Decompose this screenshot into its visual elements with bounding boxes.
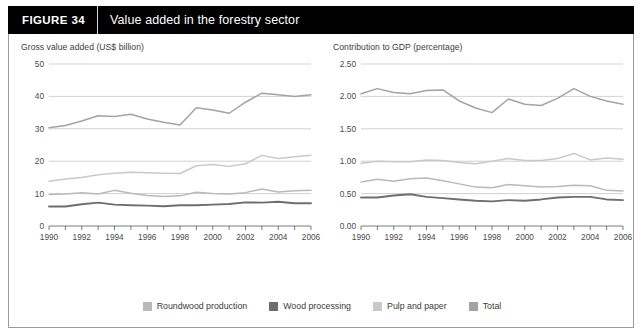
x-tick-label: 1990 bbox=[344, 233, 378, 241]
x-tick-label: 1992 bbox=[377, 233, 411, 241]
plot-area-left: 0102030405019901992199419961998200020022… bbox=[15, 58, 320, 253]
x-tick-label: 2004 bbox=[261, 233, 295, 241]
series-line bbox=[361, 89, 623, 113]
figure-body: Gross value added (US$ billion) 01020304… bbox=[8, 34, 634, 328]
legend-item: Total bbox=[469, 301, 502, 311]
x-tick-label: 1992 bbox=[65, 233, 99, 241]
chart-svg-left bbox=[15, 58, 320, 253]
x-tick-label: 1994 bbox=[410, 233, 444, 241]
legend-label: Roundwood production bbox=[157, 301, 247, 311]
legend-label: Wood processing bbox=[283, 301, 351, 311]
x-tick-label: 1998 bbox=[475, 233, 509, 241]
y-tick-label: 0.50 bbox=[327, 190, 356, 198]
y-tick-label: 2.00 bbox=[327, 92, 356, 100]
figure-number: FIGURE 34 bbox=[8, 14, 97, 26]
y-tick-label: 0 bbox=[15, 222, 44, 230]
legend-item: Roundwood production bbox=[143, 301, 247, 311]
chart-gross-value-added: Gross value added (US$ billion) 01020304… bbox=[15, 34, 320, 284]
x-axis bbox=[361, 226, 623, 230]
series-line bbox=[49, 202, 311, 207]
x-tick-label: 2002 bbox=[541, 233, 575, 241]
legend-swatch-icon bbox=[373, 302, 382, 311]
chart-right-axis-title: Contribution to GDP (percentage) bbox=[333, 42, 462, 52]
y-tick-label: 2.50 bbox=[327, 60, 356, 68]
series-line bbox=[49, 155, 311, 181]
legend-swatch-icon bbox=[269, 302, 278, 311]
x-tick-label: 1994 bbox=[98, 233, 132, 241]
y-tick-label: 1.50 bbox=[327, 125, 356, 133]
chart-legend: Roundwood productionWood processingPulp … bbox=[9, 286, 635, 326]
chart-svg-right bbox=[327, 58, 632, 253]
x-tick-label: 2000 bbox=[508, 233, 542, 241]
legend-item: Wood processing bbox=[269, 301, 351, 311]
x-tick-label: 2006 bbox=[606, 233, 640, 241]
y-tick-label: 20 bbox=[15, 157, 44, 165]
chart-contribution-to-gdp: Contribution to GDP (percentage) 0.000.5… bbox=[327, 34, 632, 284]
legend-swatch-icon bbox=[143, 302, 152, 311]
y-tick-label: 40 bbox=[15, 92, 44, 100]
y-tick-label: 30 bbox=[15, 125, 44, 133]
y-tick-label: 50 bbox=[15, 60, 44, 68]
y-tick-label: 1.00 bbox=[327, 157, 356, 165]
charts-row: Gross value added (US$ billion) 01020304… bbox=[9, 34, 635, 284]
series-line bbox=[361, 153, 623, 163]
series-line bbox=[361, 178, 623, 191]
x-tick-label: 2002 bbox=[229, 233, 263, 241]
chart-left-axis-title: Gross value added (US$ billion) bbox=[21, 42, 144, 52]
series-line bbox=[49, 93, 311, 128]
x-axis bbox=[49, 226, 311, 230]
x-tick-label: 1998 bbox=[163, 233, 197, 241]
x-tick-label: 2000 bbox=[196, 233, 230, 241]
x-tick-label: 2006 bbox=[294, 233, 328, 241]
figure-container: FIGURE 34 Value added in the forestry se… bbox=[0, 0, 642, 336]
header-divider bbox=[97, 6, 98, 34]
x-tick-label: 1990 bbox=[32, 233, 66, 241]
series-line bbox=[49, 189, 311, 196]
y-tick-label: 0.00 bbox=[327, 222, 356, 230]
legend-label: Pulp and paper bbox=[387, 301, 447, 311]
x-tick-label: 2004 bbox=[573, 233, 607, 241]
gridlines bbox=[361, 64, 623, 194]
y-tick-label: 10 bbox=[15, 190, 44, 198]
x-tick-label: 1996 bbox=[442, 233, 476, 241]
figure-header: FIGURE 34 Value added in the forestry se… bbox=[8, 6, 634, 34]
series-line bbox=[361, 194, 623, 201]
legend-item: Pulp and paper bbox=[373, 301, 447, 311]
legend-label: Total bbox=[483, 301, 502, 311]
x-tick-label: 1996 bbox=[130, 233, 164, 241]
figure-title: Value added in the forestry sector bbox=[98, 13, 299, 27]
legend-swatch-icon bbox=[469, 302, 478, 311]
plot-area-right: 0.000.501.001.502.002.501990199219941996… bbox=[327, 58, 632, 253]
